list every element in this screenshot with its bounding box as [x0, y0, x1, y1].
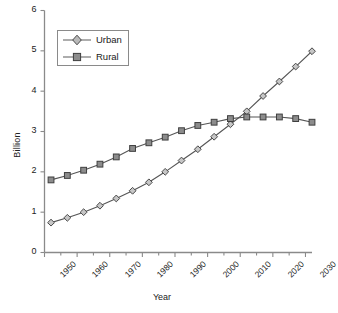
legend-item-urban[interactable]: Urban	[58, 31, 128, 48]
data-point-rural-2017	[260, 114, 266, 120]
legend-item-rural[interactable]: Rural	[58, 48, 128, 65]
open-diamond-marker-icon	[62, 33, 92, 47]
series-line-rural	[51, 117, 312, 180]
data-point-urban-1957	[64, 214, 71, 221]
y-tick-label-0: 0	[15, 246, 37, 256]
data-point-urban-1987	[162, 168, 169, 175]
chart-legend: Urban Rural	[57, 30, 129, 66]
data-point-rural-1992	[179, 128, 185, 134]
y-tick-label-4: 4	[15, 85, 37, 95]
data-point-urban-1972	[113, 195, 120, 202]
data-point-urban-1992	[178, 157, 185, 164]
data-point-rural-1982	[146, 140, 152, 146]
data-point-rural-1977	[130, 146, 136, 152]
data-point-rural-2007	[228, 116, 234, 122]
data-point-urban-1952	[48, 219, 55, 226]
data-point-rural-2012	[244, 114, 250, 120]
series-line-urban	[51, 51, 312, 222]
data-point-rural-2022	[276, 114, 282, 120]
data-point-rural-2002	[211, 119, 217, 125]
data-point-rural-2032	[309, 119, 315, 125]
legend-label-rural: Rural	[96, 51, 119, 62]
y-tick-label-3: 3	[15, 125, 37, 135]
data-point-rural-1972	[113, 154, 119, 160]
data-point-rural-1962	[81, 167, 87, 173]
y-tick-label-1: 1	[15, 206, 37, 216]
y-tick-label-5: 5	[15, 44, 37, 54]
data-point-urban-1962	[80, 209, 87, 216]
data-point-rural-1987	[162, 134, 168, 140]
data-point-rural-1957	[64, 173, 70, 179]
y-tick-label-2: 2	[15, 165, 37, 175]
filled-square-marker-icon	[62, 50, 92, 64]
data-point-rural-2027	[293, 116, 299, 122]
data-point-rural-1997	[195, 123, 201, 129]
x-axis-title: Year	[0, 292, 324, 302]
data-point-urban-1977	[129, 187, 136, 194]
data-point-rural-1952	[48, 177, 54, 183]
y-tick-label-6: 6	[15, 4, 37, 14]
legend-label-urban: Urban	[96, 34, 122, 45]
data-point-urban-1967	[97, 202, 104, 209]
data-point-urban-1982	[145, 179, 152, 186]
data-point-rural-1967	[97, 161, 103, 167]
